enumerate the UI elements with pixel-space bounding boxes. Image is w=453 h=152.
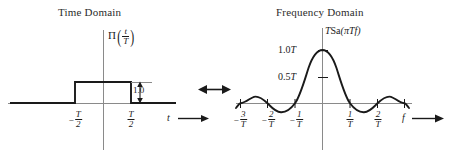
tick-denominator: 2 [127,120,134,129]
tick-denominator: T [296,120,303,129]
tick-denominator: 2 [75,120,82,129]
ylabel-number: 1.0 [278,44,291,55]
freq-tick-minus-3-over-T: − 3 T [233,110,247,130]
left-paren-icon: ( [117,28,121,46]
time-x-axis-label: t [167,112,170,123]
rect-pulse-curve [10,82,176,103]
minus-sign: − [68,115,75,125]
frequency-domain-plot [236,28,444,150]
time-arg-denominator: T [122,37,129,46]
freq-x-axis-label: f [402,112,405,123]
tick-denominator: T [346,120,353,129]
tick-denominator: T [240,120,247,129]
freq-tick-2-over-T: 2 T [374,110,381,130]
time-domain-plot [8,30,209,150]
minus-sign: − [261,115,268,125]
freq-label-func: Sa [331,25,341,36]
fourier-pair-double-arrow [198,85,231,94]
time-axis-arrow [178,115,209,122]
freq-label-arg: (πTf) [341,25,361,36]
pi-symbol: Π [108,29,116,41]
freq-tick-minus-2-over-T: − 2 T [261,110,275,130]
freq-ylabel-1T: 1.0T [278,44,296,55]
freq-tick-minus-1-over-T: − 1 T [289,110,303,130]
amplitude-value-label: 1.0 [133,85,144,95]
freq-tick-1-over-T: 1 T [346,110,353,130]
tick-denominator: T [374,120,381,129]
tick-denominator: T [268,120,275,129]
ylabel-unit: T [290,71,296,82]
right-paren-icon: ) [130,28,134,46]
time-signal-label: Π( t T ) [108,27,136,47]
ylabel-number: 0.5 [278,71,291,82]
freq-signal-label: TSa(πTf) [325,25,361,36]
freq-ylabel-05T: 0.5T [278,71,296,82]
ylabel-unit: T [290,44,296,55]
time-tick-minus-T-over-2: − T 2 [68,110,82,130]
minus-sign: − [233,115,240,125]
time-tick-T-over-2: T 2 [127,110,134,130]
fourier-transform-pair-figure: Time Domain Frequency Domain [0,0,453,152]
minus-sign: − [289,115,296,125]
freq-axis-arrow [412,115,444,123]
